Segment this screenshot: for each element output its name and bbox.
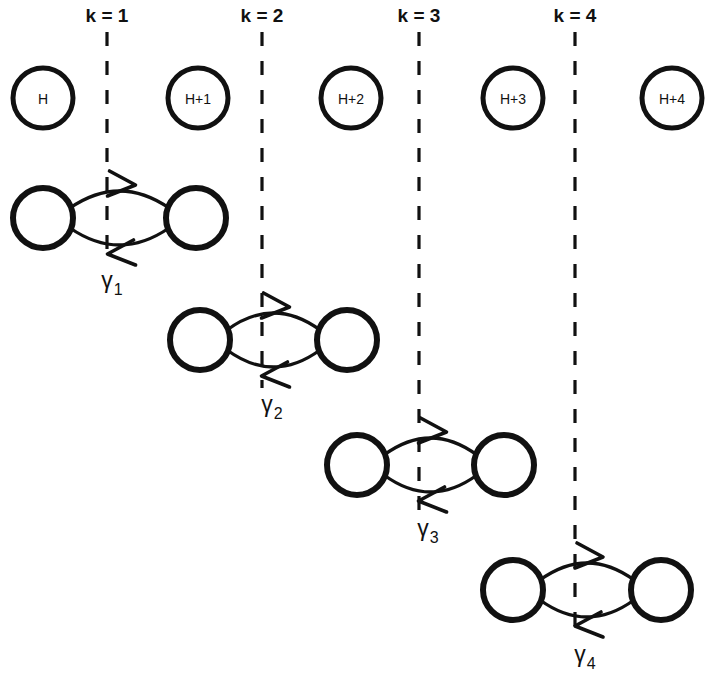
cut-line-label-k2: k = 2 xyxy=(241,5,284,26)
coupling-node-right xyxy=(317,310,377,370)
energy-level-label: H+3 xyxy=(500,91,526,107)
coupling-strength-label: γ1 xyxy=(101,267,123,298)
coupling-node-left xyxy=(13,188,73,248)
cut-line-label-k3: k = 3 xyxy=(398,5,441,26)
level-coupling-diagram: k = 1k = 2k = 3k = 4 HH+1H+2H+3H+4 γ1γ2γ… xyxy=(0,0,709,690)
gamma-subscript: 4 xyxy=(587,655,596,672)
coupling-arc-backward xyxy=(384,475,477,492)
coupling-strength-label: γ3 xyxy=(417,515,439,546)
diagram-canvas: k = 1k = 2k = 3k = 4 HH+1H+2H+3H+4 γ1γ2γ… xyxy=(0,0,709,690)
coupling-node-right xyxy=(474,435,534,495)
coupling-node-right xyxy=(166,188,226,248)
gamma-symbol: γ xyxy=(574,641,586,667)
coupling-pair: γ4 xyxy=(483,543,691,672)
coupling-arc-backward xyxy=(227,350,320,367)
coupling-strength-label: γ4 xyxy=(574,641,596,672)
energy-level-label: H xyxy=(38,91,48,107)
coupling-pair: γ2 xyxy=(170,293,377,422)
coupling-pairs-group: γ1γ2γ3γ4 xyxy=(13,171,691,672)
energy-levels-group: HH+1H+2H+3H+4 xyxy=(13,68,702,128)
coupling-arc-forward xyxy=(384,438,477,455)
gamma-symbol: γ xyxy=(417,515,429,541)
coupling-pair: γ3 xyxy=(327,418,534,546)
gamma-symbol: γ xyxy=(261,391,273,417)
coupling-node-left xyxy=(483,560,543,620)
coupling-node-left xyxy=(170,310,230,370)
energy-level-label: H+4 xyxy=(659,91,685,107)
gamma-subscript: 2 xyxy=(274,405,283,422)
coupling-arc-forward xyxy=(70,191,169,208)
coupling-arc-forward xyxy=(227,313,320,330)
coupling-node-left xyxy=(327,435,387,495)
coupling-arc-backward xyxy=(540,600,634,617)
cut-line-label-k1: k = 1 xyxy=(86,5,129,26)
cut-line-label-k4: k = 4 xyxy=(554,5,597,26)
coupling-arc-backward xyxy=(70,228,169,245)
gamma-subscript: 3 xyxy=(430,529,439,546)
coupling-node-right xyxy=(631,560,691,620)
coupling-arc-forward xyxy=(540,563,634,580)
coupling-pair: γ1 xyxy=(13,171,226,298)
energy-level-label: H+1 xyxy=(185,91,211,107)
coupling-strength-label: γ2 xyxy=(261,391,283,422)
gamma-subscript: 1 xyxy=(114,281,123,298)
energy-level-label: H+2 xyxy=(338,91,364,107)
gamma-symbol: γ xyxy=(101,267,113,293)
